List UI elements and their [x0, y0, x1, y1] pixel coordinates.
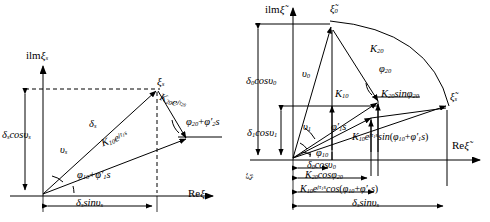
right-imag-axis-label: ilmξ̃: [265, 4, 284, 15]
right-k10-label: K10: [335, 89, 349, 100]
right-phi1-prime-s-label: φ′1s: [331, 122, 346, 133]
left-horizontal-projection-label: δssinυs: [76, 198, 103, 209]
left-delta-vector-label: δs: [89, 119, 96, 130]
right-bottom-delta-s-sin-label: δssinυs: [352, 198, 379, 209]
left-imag-axis-label: ilmξs: [26, 50, 48, 62]
right-real-axis-label: Reξ̃: [452, 140, 469, 151]
right-vector-delta0: [293, 27, 331, 158]
right-tip-right-label: ξ̃s: [450, 92, 457, 103]
left-arc-phi2: [172, 120, 179, 133]
left-vertical-projection-label: δscosυs: [2, 130, 31, 141]
right-angle-v0-label: υ0: [302, 69, 310, 80]
diagram-vectors: [0, 0, 490, 222]
right-edge-label: ξ̃s: [245, 174, 255, 180]
left-angle-v-label: υs: [60, 145, 67, 156]
left-tip-label: ξs: [157, 76, 164, 88]
right-line-elbow-to-tip: [371, 108, 446, 118]
left-phase1-label: φ10+φ′1s: [77, 170, 111, 181]
right-phi20-label: φ20: [379, 64, 391, 75]
left-real-axis-label: Reξ: [188, 188, 205, 199]
right-delta0-cos-label: δ0cosυ0: [246, 76, 276, 87]
right-k20-label: K20: [370, 44, 384, 55]
right-phi10-label: φ10: [316, 148, 328, 159]
right-bottom-k20-cos-label: K20cosφ20: [305, 170, 343, 180]
right-k10-exp-sin-label: K10ejτ1ssin(φ10+φ′1s): [352, 132, 428, 142]
right-angle-v1-label: υ1: [303, 122, 311, 133]
right-arc-phi20: [366, 83, 372, 95]
right-arc-v1: [300, 143, 307, 149]
figure-canvas: ilmξs Reξ ξs δscosυs δssinυs υs δs K10ej…: [0, 0, 490, 222]
right-delta1-cos-label: δ1cosυ1: [247, 128, 277, 139]
right-diagram-group: [250, 8, 480, 210]
right-k20-sin-label: K20sinφ20: [381, 89, 419, 100]
right-tip-top-label: ξ̃0: [330, 4, 338, 15]
left-phase2-label: φ20+φ′2s: [186, 117, 220, 128]
right-bottom-k10-exp-cos-label: K10ejτ1scos(φ10+φ′1s): [300, 184, 378, 194]
left-arc-phi1: [73, 186, 74, 193]
